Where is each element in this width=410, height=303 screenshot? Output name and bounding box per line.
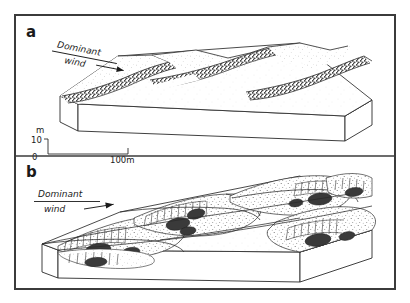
panel-b-wind-annotation: Dominant wind bbox=[34, 189, 114, 214]
panel-b-wind-arrow-icon bbox=[84, 201, 115, 212]
scale-vertical-top: 10 bbox=[31, 135, 42, 145]
scale-vertical-rule bbox=[44, 139, 48, 154]
scale-vertical-unit: m bbox=[36, 125, 44, 135]
dune-diagram-svg: a Dominant wind m 10 0 100m bbox=[0, 0, 410, 303]
panel-b: b Dominant wind bbox=[26, 163, 376, 282]
panel-b-letter: b bbox=[26, 163, 37, 181]
panel-b-wind-label-line2: wind bbox=[44, 204, 66, 214]
figure-container: a Dominant wind m 10 0 100m bbox=[0, 0, 410, 303]
scale-horizontal-rule bbox=[48, 148, 128, 154]
scale-horizontal-start: 0 bbox=[32, 152, 37, 162]
panel-a-letter: a bbox=[26, 23, 36, 41]
panel-b-wind-label-line1: Dominant bbox=[38, 189, 83, 199]
panel-a: a Dominant wind bbox=[26, 23, 372, 141]
panel-a-wind-label-line1: Dominant bbox=[56, 39, 102, 57]
